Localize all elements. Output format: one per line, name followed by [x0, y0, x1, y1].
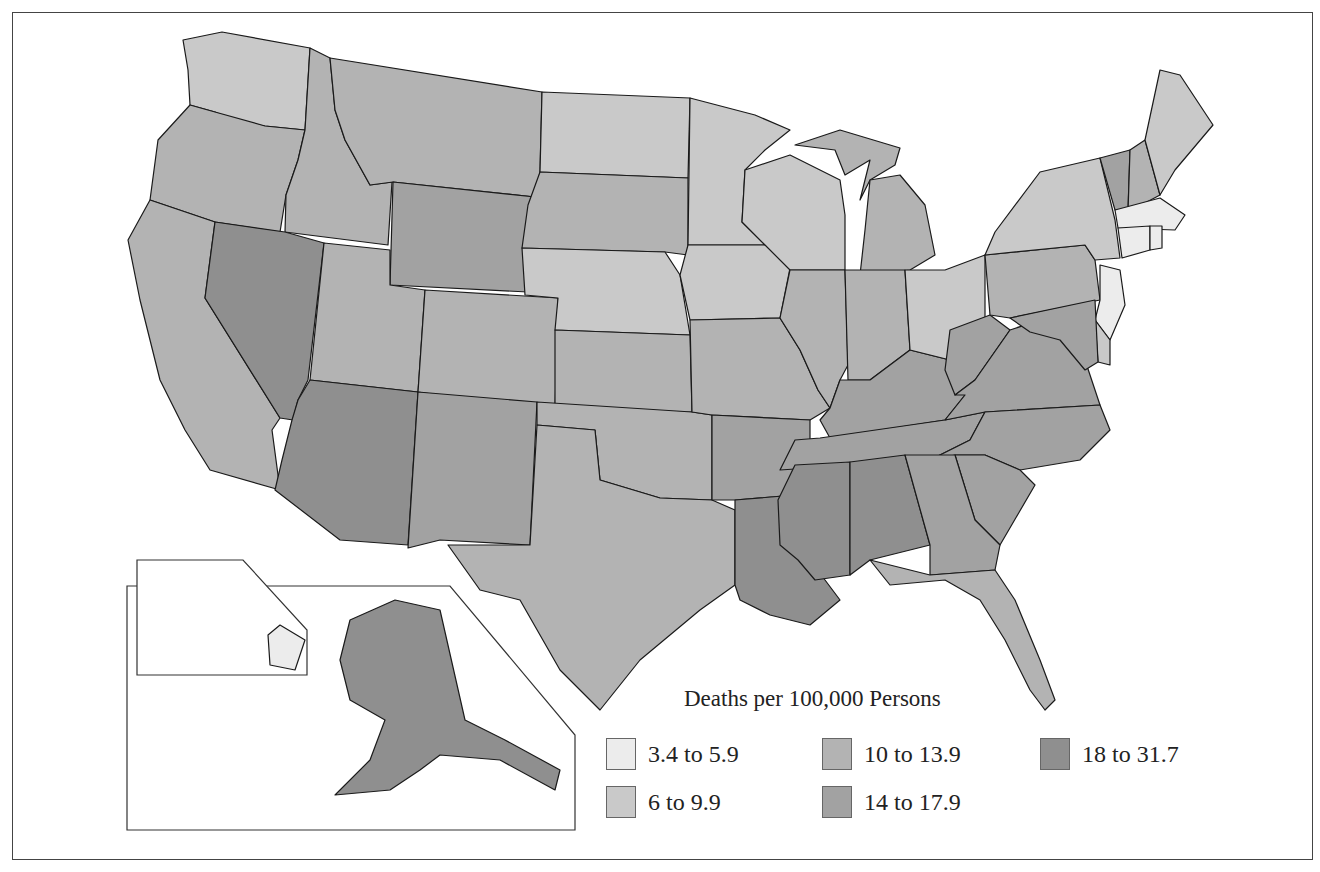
legend-item-b4: 14 to 17.9 — [822, 786, 961, 818]
legend-item-b2: 6 to 9.9 — [606, 786, 721, 818]
legend-item-b5: 18 to 31.7 — [1040, 738, 1179, 770]
state-nm — [408, 392, 537, 548]
legend-label-b2: 6 to 9.9 — [648, 789, 721, 816]
legend-swatch-b4 — [822, 786, 852, 818]
state-mi — [860, 175, 935, 275]
legend-label-b1: 3.4 to 5.9 — [648, 741, 739, 768]
legend-swatch-b5 — [1040, 738, 1070, 770]
legend-label-b4: 14 to 17.9 — [864, 789, 961, 816]
legend-item-b3: 10 to 13.9 — [822, 738, 961, 770]
state-me — [1145, 70, 1213, 195]
state-ia — [680, 245, 790, 320]
legend-label-b5: 18 to 31.7 — [1082, 741, 1179, 768]
state-ct — [1118, 226, 1150, 258]
state-ks — [555, 330, 692, 412]
state-ny — [985, 158, 1120, 260]
legend-title: Deaths per 100,000 Persons — [684, 686, 941, 712]
legend-swatch-b3 — [822, 738, 852, 770]
legend-label-b3: 10 to 13.9 — [864, 741, 961, 768]
state-ri — [1150, 226, 1162, 250]
state-nd — [540, 92, 690, 178]
state-az — [275, 380, 418, 545]
state-wy — [390, 182, 535, 292]
state-sd — [522, 172, 688, 255]
inset-layer — [127, 560, 575, 830]
legend-swatch-b2 — [606, 786, 636, 818]
legend-swatch-b1 — [606, 738, 636, 770]
legend-item-b1: 3.4 to 5.9 — [606, 738, 739, 770]
